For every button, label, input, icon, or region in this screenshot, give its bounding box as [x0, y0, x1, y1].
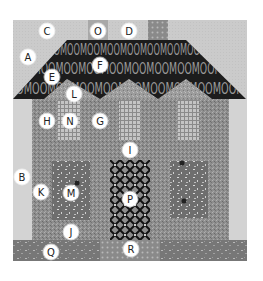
quilt-block-diagram: MOOMOOMOOMOOMOOMOOMOOMOOMOOMOOMOO MOOMOO… [0, 0, 263, 281]
label-m: M [64, 186, 79, 201]
window-print-dot [182, 199, 187, 204]
label-f: F [93, 58, 108, 73]
upper-window-middle [119, 100, 140, 140]
label-d: D [122, 24, 137, 39]
quilt-block-artwork: MOOMOOMOOMOOMOOMOOMOOMOOMOOMOOMOO MOOMOO… [0, 0, 263, 281]
label-a: A [21, 50, 36, 65]
label-g: G [93, 114, 108, 129]
lower-window-right [170, 161, 208, 218]
window-print-dot [75, 181, 80, 186]
label-i: I [123, 143, 138, 158]
label-c: C [40, 24, 55, 39]
side-sashing-right [229, 99, 247, 240]
label-l: L [67, 87, 82, 102]
label-e: E [45, 70, 60, 85]
label-j: J [64, 225, 79, 240]
window-print-dot [180, 161, 185, 166]
label-n: N [63, 114, 78, 129]
label-p: P [123, 192, 138, 207]
label-b: B [15, 170, 30, 185]
label-q: Q [44, 245, 59, 260]
label-r: R [124, 242, 139, 257]
label-h: H [40, 114, 55, 129]
upper-window-right [178, 100, 199, 140]
label-k: K [34, 185, 49, 200]
label-o: O [91, 24, 106, 39]
chimney-right [148, 20, 168, 40]
